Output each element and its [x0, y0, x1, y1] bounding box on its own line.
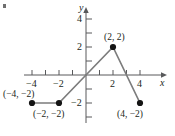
- point-label-neg2-neg2: (−2, −2): [33, 110, 64, 120]
- point-label-neg4-neg2: (−4, −2): [3, 90, 34, 100]
- data-point-2-2: [110, 44, 116, 50]
- y-tick-label-2: 2: [77, 42, 82, 52]
- point-label-2-2: (2, 2): [104, 33, 125, 43]
- x-axis-label: x: [160, 78, 164, 88]
- data-point-4-neg2: [137, 100, 143, 106]
- graph-figure: −4 −2 2 4 4 2 −2 x y (−4, −2) (−2, −2) (…: [0, 0, 175, 136]
- coordinate-plane-svg: [0, 0, 175, 136]
- x-tick-label-neg2: −2: [53, 79, 64, 89]
- y-axis-arrow-icon: [83, 7, 88, 13]
- data-point-neg2-neg2: [56, 100, 62, 106]
- x-tick-label-2: 2: [110, 79, 115, 89]
- y-axis-label: y: [79, 3, 83, 13]
- x-tick-label-neg4: −4: [26, 79, 37, 89]
- y-tick-label-4: 4: [77, 14, 82, 24]
- y-axis-ticks: [86, 19, 92, 117]
- data-point-neg4-neg2: [29, 100, 35, 106]
- y-tick-label-neg2: −2: [71, 98, 82, 108]
- x-tick-label-4: 4: [137, 79, 142, 89]
- point-label-4-neg2: (4, −2): [117, 110, 143, 120]
